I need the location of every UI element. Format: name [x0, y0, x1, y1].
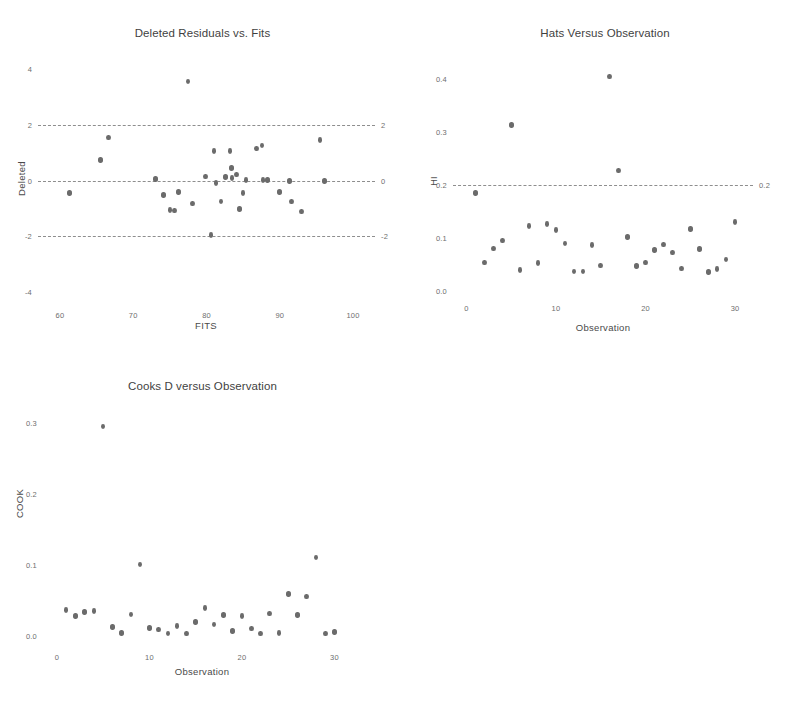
data-point: [661, 242, 666, 248]
data-point: [733, 219, 738, 225]
data-point: [166, 631, 171, 637]
chart-panel-cooks-d: Cooks D versus Observation 0.30.20.10.00…: [0, 358, 405, 714]
data-point: [92, 608, 97, 614]
data-point: [106, 135, 111, 141]
data-point: [286, 591, 291, 597]
data-point: [706, 269, 711, 275]
reference-line: [38, 125, 375, 126]
data-point: [697, 246, 702, 252]
data-point: [318, 137, 323, 143]
x-axis-tick: 10: [552, 304, 561, 313]
x-axis-tick: 100: [346, 311, 359, 320]
data-point: [249, 626, 254, 632]
x-axis-tick: 20: [238, 653, 247, 662]
y-axis-label-deleted: Deleted: [16, 147, 27, 211]
x-axis-tick: 60: [56, 311, 65, 320]
data-point: [299, 209, 304, 215]
data-point: [67, 190, 72, 196]
x-axis-tick: 80: [202, 311, 211, 320]
y-axis-tick: -2: [2, 232, 32, 241]
data-point: [277, 189, 282, 195]
right-axis-tick: 0.2: [759, 180, 770, 189]
reference-line: [453, 185, 753, 186]
data-point: [554, 227, 559, 233]
data-point: [193, 619, 198, 625]
data-point: [572, 269, 577, 275]
x-axis-tick: 30: [330, 653, 339, 662]
data-point: [219, 199, 224, 205]
data-point: [482, 260, 487, 266]
x-axis-label-observation-hats: Observation: [553, 322, 653, 333]
data-point: [509, 122, 514, 128]
y-axis-label-cook: COOK: [14, 472, 25, 536]
data-point: [258, 631, 263, 637]
data-point: [119, 630, 124, 636]
data-point: [607, 74, 612, 80]
data-point: [314, 555, 319, 561]
y-axis-tick: 0.1: [7, 561, 37, 570]
data-point: [138, 562, 143, 568]
data-point: [244, 177, 249, 183]
x-axis-tick: 70: [129, 311, 138, 320]
data-point: [616, 168, 621, 174]
right-axis-tick: -2: [381, 232, 388, 241]
data-point: [230, 628, 235, 634]
data-point: [332, 629, 337, 635]
data-point: [260, 143, 265, 149]
data-point: [101, 424, 106, 430]
data-point: [153, 176, 158, 182]
data-point: [527, 223, 532, 229]
data-point: [473, 190, 478, 196]
x-axis-tick: 20: [641, 304, 650, 313]
data-point: [715, 266, 720, 272]
y-axis-tick: 0.1: [417, 233, 447, 242]
data-point: [277, 630, 282, 636]
data-point: [147, 625, 152, 631]
data-point: [234, 172, 239, 178]
data-point: [500, 238, 505, 244]
x-axis-tick: 30: [731, 304, 740, 313]
data-point: [176, 189, 181, 195]
chart-panel-deleted-residuals: Deleted Residuals vs. Fits 420-2-420-260…: [0, 0, 405, 358]
x-axis-tick: 10: [145, 653, 154, 662]
data-point: [186, 79, 191, 85]
y-axis-tick: 0.4: [417, 75, 447, 84]
data-point: [491, 246, 496, 252]
data-point: [536, 260, 541, 266]
data-point: [64, 607, 69, 613]
right-axis-tick: 2: [381, 120, 385, 129]
data-point: [289, 199, 294, 205]
data-point: [679, 266, 684, 272]
data-point: [129, 612, 134, 618]
reference-line: [38, 236, 375, 237]
data-point: [98, 157, 103, 163]
data-point: [172, 208, 177, 214]
data-point: [652, 247, 657, 253]
data-point: [203, 174, 208, 180]
data-point: [221, 612, 226, 618]
data-point: [240, 613, 245, 619]
x-axis-label-fits: FITS: [156, 320, 256, 331]
data-point: [295, 612, 300, 618]
plot-area-hats: 0.40.30.20.10.00.20102030: [453, 58, 753, 296]
data-point: [598, 263, 603, 269]
data-point: [223, 174, 228, 180]
data-point: [229, 165, 234, 171]
data-point: [161, 192, 166, 198]
x-axis-label-observation-cook: Observation: [152, 666, 252, 677]
chart-panel-hats: Hats Versus Observation 0.40.30.20.10.00…: [405, 0, 805, 358]
y-axis-label-hi: HI: [429, 149, 439, 213]
data-point: [323, 631, 328, 637]
data-point: [228, 148, 233, 154]
y-axis-tick: 0.0: [417, 286, 447, 295]
y-axis-tick: 0.3: [7, 418, 37, 427]
chart-title-deleted-residuals: Deleted Residuals vs. Fits: [0, 27, 405, 39]
right-axis-tick: 0: [381, 176, 385, 185]
data-point: [643, 260, 648, 266]
chart-title-cooks-d: Cooks D versus Observation: [0, 380, 405, 392]
data-point: [287, 178, 292, 184]
data-point: [190, 201, 195, 207]
data-point: [209, 232, 214, 238]
data-point: [563, 241, 568, 247]
data-point: [265, 177, 270, 183]
